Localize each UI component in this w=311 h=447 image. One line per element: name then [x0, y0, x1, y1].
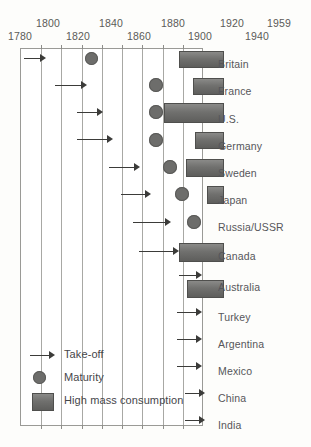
takeoff-arrow-canada [139, 247, 179, 256]
takeoff-arrow-britain [24, 54, 46, 63]
tick-top-1820 [61, 45, 62, 49]
x-tick-label-1820: 1820 [66, 30, 90, 42]
maturity-dot-japan [175, 187, 189, 201]
arrow-icon [30, 345, 58, 365]
legend-item-takeoff: Take-off [30, 345, 190, 368]
takeoff-arrow-germany [77, 135, 113, 144]
x-tick-label-1800: 1800 [36, 17, 60, 29]
maturity-dot-germany [149, 133, 163, 147]
x-tick-label-1940: 1940 [245, 30, 269, 42]
country-label-sweden: Sweden [218, 167, 257, 179]
tick-top-1940 [183, 45, 184, 49]
country-label-russia-ussr: Russia/USSR [218, 221, 284, 233]
legend-label-maturity: Maturity [64, 371, 104, 383]
maturity-dot-us [149, 105, 163, 119]
country-label-china: China [218, 392, 246, 404]
chart-legend: Take-off Maturity High mass consumption [30, 345, 190, 414]
maturity-dot-france [149, 78, 163, 92]
tick-top-1840 [82, 45, 83, 49]
takeoff-arrow-japan [121, 190, 151, 199]
country-label-japan: Japan [218, 194, 247, 206]
x-tick-label-1840: 1840 [99, 17, 123, 29]
tick-top-1880 [122, 45, 123, 49]
maturity-dot-britain [85, 52, 98, 65]
circle-icon [30, 368, 58, 388]
country-label-australia: Australia [218, 281, 260, 293]
tick-bottom-1880 [122, 425, 123, 429]
takeoff-arrow-turkey [177, 308, 202, 317]
legend-item-maturity: Maturity [30, 368, 190, 391]
takeoff-arrow-argentina [177, 335, 202, 344]
country-label-turkey: Turkey [218, 311, 251, 323]
x-tick-label-1780: 1780 [8, 30, 32, 42]
legend-label-takeoff: Take-off [64, 348, 104, 360]
tick-top-1860 [102, 45, 103, 49]
legend-label-consumption: High mass consumption [64, 394, 184, 406]
maturity-dot-sweden [163, 160, 177, 174]
takeoff-arrow-russia [133, 218, 171, 227]
tick-bottom-1940 [183, 425, 184, 429]
legend-item-consumption: High mass consumption [30, 391, 190, 414]
takeoff-arrow-sweden [109, 163, 140, 172]
tick-bottom-1920 [163, 425, 164, 429]
tick-bottom-1820 [61, 425, 62, 429]
consumption-bar-us [164, 103, 224, 123]
takeoff-arrow-india [185, 416, 205, 425]
chart-canvas: 1800 1840 1880 1920 1959 1780 1820 1860 … [0, 0, 311, 447]
takeoff-arrow-us [77, 108, 103, 117]
country-label-germany: Germany [218, 140, 262, 152]
bar-swatch-icon [30, 391, 58, 411]
tick-top-1800 [41, 45, 42, 49]
country-label-britain: Britain [218, 58, 249, 70]
tick-top-1900 [142, 45, 143, 49]
country-label-france: France [218, 85, 252, 97]
tick-top-1920 [163, 45, 164, 49]
x-tick-label-1959: 1959 [267, 17, 291, 29]
x-tick-label-1900: 1900 [188, 30, 212, 42]
tick-bottom-1860 [102, 425, 103, 429]
maturity-dot-russia [187, 215, 201, 229]
country-label-canada: Canada [218, 250, 256, 262]
tick-bottom-1800 [41, 425, 42, 429]
x-axis-labels: 1800 1840 1880 1920 1959 1780 1820 1860 … [0, 0, 311, 44]
x-tick-label-1880: 1880 [161, 17, 185, 29]
x-tick-label-1860: 1860 [127, 30, 151, 42]
country-label-india: India [218, 419, 242, 431]
x-tick-label-1920: 1920 [220, 17, 244, 29]
country-label-mexico: Mexico [218, 365, 252, 377]
tick-bottom-1900 [142, 425, 143, 429]
country-label-us: U.S. [218, 113, 239, 125]
tick-bottom-1840 [82, 425, 83, 429]
country-label-argentina: Argentina [218, 338, 264, 350]
takeoff-arrow-france [55, 81, 87, 90]
takeoff-arrow-australia [179, 271, 202, 280]
